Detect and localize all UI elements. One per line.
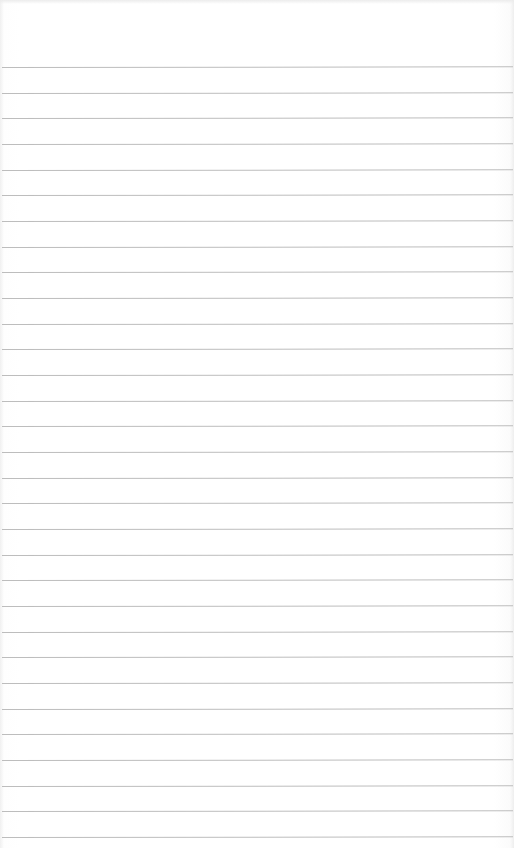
ruled-line <box>2 451 513 453</box>
ruled-line <box>2 400 513 402</box>
ruled-line <box>2 759 513 761</box>
lined-paper <box>0 0 514 848</box>
ruled-line <box>2 502 513 504</box>
ruled-line <box>2 220 513 222</box>
ruled-line <box>2 708 513 710</box>
ruled-line <box>2 425 513 427</box>
ruled-line <box>2 246 513 248</box>
ruled-line <box>2 579 513 581</box>
ruled-line <box>2 682 513 684</box>
ruled-line <box>2 169 513 171</box>
top-edge-shadow <box>0 0 514 4</box>
ruled-line <box>2 92 513 94</box>
ruled-line <box>2 374 513 376</box>
ruled-line <box>2 66 513 68</box>
ruled-line <box>2 656 513 658</box>
ruled-line <box>2 194 513 196</box>
ruled-line <box>2 348 513 350</box>
ruled-line <box>2 733 513 735</box>
ruled-line <box>2 554 513 556</box>
ruled-line <box>2 323 513 325</box>
ruled-line <box>2 117 513 119</box>
ruled-line <box>2 297 513 299</box>
ruled-line <box>2 631 513 633</box>
ruled-line <box>2 785 513 787</box>
ruled-line <box>2 143 513 145</box>
ruled-line <box>2 528 513 530</box>
ruled-line <box>2 810 513 812</box>
ruled-line <box>2 836 513 838</box>
ruled-line <box>2 477 513 479</box>
ruled-line <box>2 605 513 607</box>
ruled-line <box>2 271 513 273</box>
